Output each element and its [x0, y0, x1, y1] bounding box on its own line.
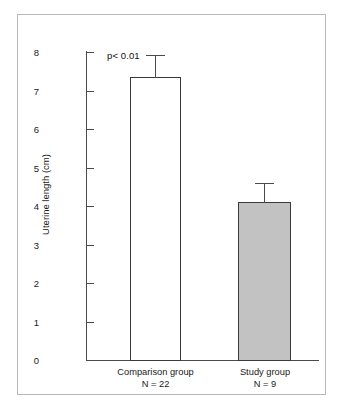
y-tick-4: [87, 206, 94, 207]
bar-study-group[interactable]: [238, 202, 291, 361]
y-tick-label-5: 5: [0, 164, 39, 174]
x-label-comparison-group-name: Comparison group: [117, 367, 193, 377]
figure-canvas: Uterine length (cm) 8 7 6 5 4 3 2 1 0 p<…: [0, 0, 344, 410]
figure-border: Uterine length (cm) 8 7 6 5 4 3 2 1 0 p<…: [17, 14, 326, 395]
errorbar-cap-study-group: [255, 183, 274, 184]
y-tick-label-6: 6: [0, 125, 39, 135]
y-tick-2: [87, 283, 94, 284]
y-tick-label-1: 1: [0, 318, 39, 328]
x-label-comparison-group-count: N = 22: [95, 378, 216, 390]
y-tick-0: [87, 360, 94, 361]
y-tick-label-2: 2: [0, 279, 39, 289]
x-label-study-group-count: N = 9: [210, 378, 320, 390]
errorbar-stem-comparison-group: [155, 55, 156, 78]
y-tick-label-0: 0: [0, 356, 39, 366]
errorbar-stem-study-group: [264, 183, 265, 203]
y-tick-5: [87, 168, 94, 169]
x-label-comparison-group: Comparison group N = 22: [95, 366, 216, 390]
pvalue-annotation: p< 0.01: [107, 50, 140, 61]
x-label-study-group-name: Study group: [240, 367, 290, 377]
y-tick-label-3: 3: [0, 241, 39, 251]
y-tick-8: [87, 52, 94, 53]
y-tick-label-7: 7: [0, 87, 39, 97]
y-tick-7: [87, 91, 94, 92]
y-tick-label-4: 4: [0, 202, 39, 212]
y-tick-6: [87, 129, 94, 130]
y-tick-3: [87, 245, 94, 246]
errorbar-cap-comparison-group: [146, 55, 165, 56]
bar-comparison-group[interactable]: [130, 77, 181, 361]
y-tick-1: [87, 322, 94, 323]
y-axis-title: Uterine length (cm): [40, 105, 51, 285]
x-label-study-group: Study group N = 9: [210, 366, 320, 390]
y-tick-label-8: 8: [0, 48, 39, 58]
